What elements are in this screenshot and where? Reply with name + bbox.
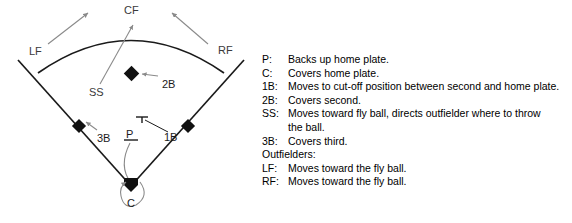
legend-key: 2B:	[262, 94, 284, 108]
baseball-coverage-figure: LF CF RF SS 2B 3B 1B P C P: Backs up hom…	[0, 0, 572, 223]
catcher-label: C	[127, 197, 135, 209]
legend-key: RF:	[262, 175, 284, 189]
legend-key: LF:	[262, 162, 284, 176]
legend-description: Moves toward the fly ball.	[284, 175, 568, 189]
outfielders-heading: Outfielders:	[262, 148, 568, 162]
legend-row: RF: Moves toward the fly ball.	[262, 175, 568, 189]
legend-row: P: Backs up home plate.	[262, 53, 568, 67]
legend-description: Covers third.	[284, 135, 568, 149]
legend-description: Moves toward fly ball, directs outfielde…	[284, 107, 568, 121]
3b-label: 3B	[97, 132, 110, 144]
legend-key: C:	[262, 67, 284, 81]
home-plate-marker	[124, 178, 138, 192]
legend-key: P:	[262, 53, 284, 67]
pitcher-label: P	[126, 128, 133, 140]
rf-label: RF	[218, 44, 233, 56]
lf-label: LF	[29, 45, 42, 57]
legend-description: Moves to cut-off position between second…	[284, 80, 568, 94]
left-foul-line	[18, 60, 131, 186]
legend-key: SS:	[262, 107, 284, 121]
2b-label: 2B	[162, 78, 175, 90]
legend-row: 2B: Covers second.	[262, 94, 568, 108]
coverage-legend: P: Backs up home plate. C: Covers home p…	[262, 53, 568, 189]
first-base-marker	[181, 119, 195, 133]
second-base-marker	[124, 66, 140, 82]
third-base-marker	[72, 119, 86, 133]
pitcher-backup-arrow	[124, 143, 131, 183]
legend-row: C: Covers home plate.	[262, 67, 568, 81]
legend-description-continued: the ball.	[262, 121, 568, 135]
legend-row: 3B: Covers third.	[262, 135, 568, 149]
legend-description: Covers second.	[284, 94, 568, 108]
legend-row: SS: Moves toward fly ball, directs outfi…	[262, 107, 568, 121]
ss-label: SS	[89, 86, 104, 98]
legend-description: Moves toward the fly ball.	[284, 162, 568, 176]
legend-key: 3B:	[262, 135, 284, 149]
legend-description: Covers home plate.	[284, 67, 568, 81]
legend-key: 1B:	[262, 80, 284, 94]
1b-label: 1B	[164, 131, 177, 143]
3b-pointer-arrow	[86, 122, 97, 130]
2b-pointer-arrow	[142, 74, 158, 76]
lf-movement-arrow	[48, 13, 88, 44]
baseball-field-diagram: LF CF RF SS 2B 3B 1B P C	[0, 0, 262, 223]
legend-row: 1B: Moves to cut-off position between se…	[262, 80, 568, 94]
rf-movement-arrow	[172, 13, 208, 44]
legend-description: Backs up home plate.	[284, 53, 568, 67]
legend-row: LF: Moves toward the fly ball.	[262, 162, 568, 176]
outfielders-heading-label: Outfielders:	[262, 148, 316, 162]
cf-label: CF	[124, 4, 139, 16]
